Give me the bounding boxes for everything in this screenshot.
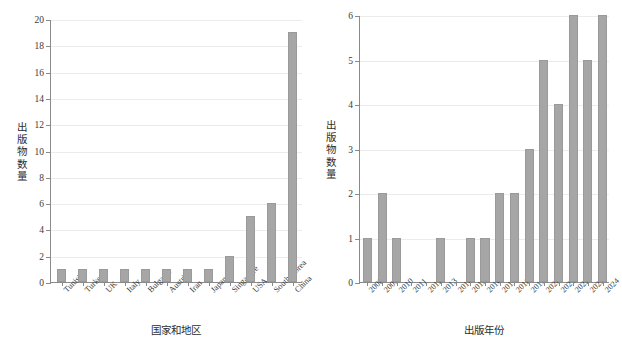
y-tick-label: 4	[39, 225, 44, 235]
bar	[99, 269, 107, 282]
bar	[525, 149, 534, 283]
bar	[57, 269, 65, 282]
x-tick-mark	[272, 282, 273, 286]
bar	[378, 193, 387, 282]
y-tick-mark	[355, 61, 360, 62]
gridline	[51, 99, 302, 100]
x-tick-mark	[83, 282, 84, 286]
y-tick-mark	[46, 46, 51, 47]
gridline	[51, 20, 302, 21]
y-axis-title-left: 出版物数量	[16, 121, 28, 183]
x-tick-mark	[167, 282, 168, 286]
x-tick-mark	[456, 282, 457, 286]
gridline	[51, 125, 302, 126]
x-tick-mark	[125, 282, 126, 286]
x-axis-title-left: 国家和地区	[50, 322, 302, 337]
gridline	[51, 204, 302, 205]
x-tick-mark	[209, 282, 210, 286]
y-tick-mark	[46, 20, 51, 21]
x-tick-mark	[603, 282, 604, 286]
y-tick-mark	[46, 230, 51, 231]
y-tick-label: 8	[39, 173, 44, 183]
y-tick-mark	[46, 73, 51, 74]
chart-panel-years: 出版物数量 0123456200820092010201120122013201…	[311, 0, 622, 346]
y-tick-label: 14	[35, 94, 45, 104]
y-axis-title-char: 数	[325, 156, 337, 168]
x-tick-mark	[559, 282, 560, 286]
plot-area-left: 02468101214161820TunisiaTurkeyUKItalyBul…	[50, 20, 302, 283]
bar	[539, 60, 548, 283]
bar	[204, 269, 212, 282]
y-tick-label: 2	[348, 189, 353, 199]
y-tick-label: 0	[348, 278, 353, 288]
bar	[392, 238, 401, 283]
y-axis-title-char: 版	[325, 131, 337, 143]
gridline	[51, 257, 302, 258]
y-axis-title-char: 量	[325, 168, 337, 180]
y-axis-title-char: 物	[325, 143, 337, 155]
x-tick-mark	[230, 282, 231, 286]
y-axis-title-char: 出	[16, 121, 28, 133]
figure-two-bar-charts: 出版物数量 02468101214161820TunisiaTurkeyUKIt…	[0, 0, 622, 346]
y-tick-label: 6	[39, 199, 44, 209]
gridline	[51, 73, 302, 74]
y-tick-label: 20	[35, 15, 45, 25]
bar	[569, 15, 578, 282]
y-tick-label: 10	[35, 147, 45, 157]
y-axis-title-right: 出版物数量	[325, 119, 337, 181]
y-tick-mark	[46, 178, 51, 179]
y-tick-label: 12	[35, 120, 45, 130]
y-tick-mark	[46, 204, 51, 205]
y-tick-mark	[355, 194, 360, 195]
bar	[554, 104, 563, 282]
y-tick-mark	[355, 283, 360, 284]
bar	[183, 269, 191, 282]
y-axis-title-char: 数	[16, 158, 28, 170]
plot-area-right: 0123456200820092010201120122013201420152…	[359, 16, 609, 283]
gridline	[51, 178, 302, 179]
y-axis-title-char: 版	[16, 133, 28, 145]
y-tick-mark	[46, 283, 51, 284]
y-tick-mark	[355, 105, 360, 106]
x-tick-mark	[146, 282, 147, 286]
y-tick-label: 5	[348, 56, 353, 66]
y-tick-mark	[46, 152, 51, 153]
gridline	[51, 46, 302, 47]
y-axis-title-char: 物	[16, 145, 28, 157]
y-tick-mark	[355, 16, 360, 17]
chart-panel-countries: 出版物数量 02468101214161820TunisiaTurkeyUKIt…	[0, 0, 311, 346]
y-tick-label: 6	[348, 11, 353, 21]
bar	[480, 238, 489, 283]
x-tick-mark	[397, 282, 398, 286]
x-axis-title-right: 出版年份	[359, 322, 609, 337]
bar	[466, 238, 475, 283]
bar	[510, 193, 519, 282]
y-tick-label: 2	[39, 252, 44, 262]
y-tick-mark	[46, 99, 51, 100]
y-tick-label: 16	[35, 68, 45, 78]
bar	[363, 238, 372, 283]
y-tick-mark	[355, 150, 360, 151]
y-tick-label: 3	[348, 145, 353, 155]
x-tick-mark	[62, 282, 63, 286]
y-tick-label: 1	[348, 234, 353, 244]
bar	[288, 32, 296, 282]
x-tick-mark	[104, 282, 105, 286]
x-tick-mark	[500, 282, 501, 286]
gridline	[51, 152, 302, 153]
y-axis-title-char: 量	[16, 170, 28, 182]
y-tick-label: 18	[35, 41, 45, 51]
y-axis-title-char: 出	[325, 119, 337, 131]
y-tick-mark	[355, 239, 360, 240]
y-tick-label: 4	[348, 100, 353, 110]
x-tick-mark	[293, 282, 294, 286]
bar	[495, 193, 504, 282]
bar	[141, 269, 149, 282]
y-tick-mark	[46, 125, 51, 126]
gridline	[51, 230, 302, 231]
y-tick-mark	[46, 257, 51, 258]
bar	[162, 269, 170, 282]
x-tick-mark	[251, 282, 252, 286]
x-tick-mark	[188, 282, 189, 286]
bar	[583, 60, 592, 283]
